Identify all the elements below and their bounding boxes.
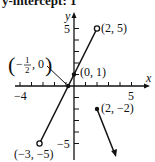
point-2-neg2 — [95, 107, 99, 111]
label-2-neg2: (2, −2) — [101, 101, 134, 115]
svg-text:1: 1 — [25, 55, 30, 65]
x-axis-label: x — [145, 71, 152, 85]
label-2-5: (2, 5) — [101, 21, 127, 35]
svg-text:, 0: , 0 — [32, 57, 44, 71]
label-neg3-neg5: (−3, −5) — [14, 147, 54, 161]
x-tick-label-neg: −4 — [14, 89, 27, 103]
open-point-2-5 — [94, 26, 99, 31]
svg-text:−: − — [16, 57, 23, 71]
y-tick-label-pos: 5 — [64, 22, 70, 36]
label-neg-half-0: ( − 1 2 , 0 ) — [8, 52, 52, 77]
open-point-neg3-neg5 — [37, 141, 42, 146]
arrow-head-icon — [111, 149, 117, 157]
point-neg-half-0 — [66, 84, 70, 88]
svg-text:(: ( — [8, 52, 15, 77]
y-axis-label: y — [64, 9, 71, 23]
point-0-1 — [72, 72, 76, 76]
ray-line — [97, 109, 114, 152]
svg-text:): ) — [45, 52, 52, 77]
x-axis — [15, 82, 150, 89]
label-0-1: (0, 1) — [80, 65, 106, 79]
y-tick-label-neg: −5 — [57, 137, 70, 151]
svg-text:2: 2 — [25, 65, 30, 75]
graph: x y −4 5 5 −5 (2, 5) (0, 1) (2, −2) (−3,… — [0, 0, 155, 162]
